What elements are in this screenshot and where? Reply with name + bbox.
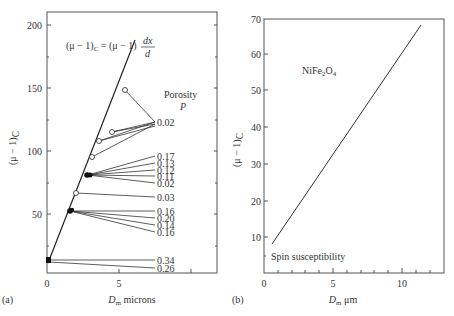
panel-b-frame [264, 19, 444, 273]
svg-text:(μ − 1)C: (μ − 1)C [7, 131, 21, 165]
porosity-labels: 0.02 0.17 0.13 0.12 0.11 0.02 0.03 0.16 … [157, 117, 175, 274]
svg-text:dx: dx [143, 35, 153, 46]
equation: (μ − 1)C = (μ − 1) dx d [66, 35, 155, 59]
svg-text:d: d [145, 48, 151, 59]
fit-line [48, 40, 135, 263]
panel-a: 200 150 100 50 0 5 (μ − 1)C Dm microns (… [2, 12, 217, 307]
nife2o4-line [272, 25, 421, 244]
y-tick-50: 50 [32, 209, 42, 220]
panel-a-x-label: Dm microns [107, 294, 156, 307]
y-tick-100: 100 [27, 146, 42, 157]
y-tick-40: 40 [251, 122, 261, 133]
panel-a-y-label: (μ − 1)C [7, 131, 21, 165]
x-tick-5: 5 [117, 278, 122, 289]
svg-text:0.03: 0.03 [157, 192, 175, 203]
x-tick-10: 10 [397, 278, 407, 289]
panel-b-ticks [264, 54, 430, 273]
svg-text:(μ − 1)C: (μ − 1)C [231, 133, 245, 167]
y-tick-20: 20 [251, 196, 261, 207]
y-tick-60: 60 [251, 49, 261, 60]
x-tick-0: 0 [262, 278, 267, 289]
y-tick-30: 30 [251, 159, 261, 170]
svg-text:0.02: 0.02 [157, 178, 175, 189]
svg-text:0.16: 0.16 [157, 227, 175, 238]
porosity-symbol: P [179, 101, 186, 112]
figure: 200 150 100 50 0 5 (μ − 1)C Dm microns (… [0, 0, 454, 316]
y-tick-50: 50 [251, 85, 261, 96]
panel-b-y-label: (μ − 1)C [231, 133, 245, 167]
material-annotation: NiFe2O4 [302, 65, 337, 78]
y-tick-70: 70 [251, 14, 261, 25]
x-tick-0: 0 [45, 278, 50, 289]
panel-b-x-label: Dm μm [328, 294, 358, 307]
y-tick-150: 150 [27, 83, 42, 94]
svg-text:0.02: 0.02 [157, 117, 175, 128]
spin-susceptibility-label: Spin susceptibility [271, 251, 345, 262]
porosity-connectors [49, 90, 155, 268]
open-points [74, 88, 128, 196]
x-tick-5: 5 [331, 278, 336, 289]
panel-b-label: (b) [232, 294, 244, 306]
porosity-title: Porosity [164, 89, 197, 100]
panel-b: 70 60 50 40 30 20 10 0 5 10 (μ − 1)C Dm … [231, 14, 444, 307]
y-tick-200: 200 [27, 20, 42, 31]
panel-a-y-ticks [47, 25, 217, 273]
panel-a-label: (a) [2, 294, 13, 306]
y-tick-10: 10 [251, 232, 261, 243]
panel-a-frame [47, 12, 217, 273]
svg-text:0.26: 0.26 [157, 263, 175, 274]
svg-text:(μ − 1)C = (μ − 1): (μ − 1)C = (μ − 1) [66, 40, 137, 53]
